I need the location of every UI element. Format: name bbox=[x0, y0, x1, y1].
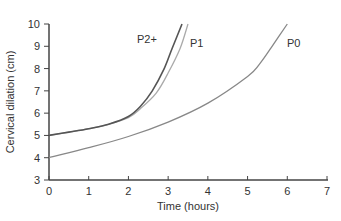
series-line-p1 bbox=[49, 24, 188, 135]
y-tick-label: 7 bbox=[34, 85, 40, 97]
y-tick-label: 9 bbox=[34, 40, 40, 52]
y-tick-label: 5 bbox=[34, 129, 40, 141]
x-tick-label: 5 bbox=[245, 185, 251, 197]
series-line-p0 bbox=[49, 24, 287, 158]
y-tick-label: 6 bbox=[34, 107, 40, 119]
chart: 01234567345678910 P2+P1P0 Time (hours) C… bbox=[0, 0, 341, 221]
y-axis-label: Cervical dilation (cm) bbox=[4, 51, 16, 154]
series-label-p0: P0 bbox=[287, 37, 300, 49]
x-tick-label: 1 bbox=[86, 185, 92, 197]
series-line-p2 bbox=[49, 24, 182, 135]
x-axis-label: Time (hours) bbox=[157, 200, 219, 212]
y-tick-label: 8 bbox=[34, 63, 40, 75]
series-group bbox=[49, 24, 287, 158]
x-tick-label: 4 bbox=[205, 185, 211, 197]
series-label-p2: P2+ bbox=[137, 33, 157, 45]
x-tick-label: 0 bbox=[46, 185, 52, 197]
series-label-p1: P1 bbox=[190, 37, 203, 49]
x-tick-label: 2 bbox=[125, 185, 131, 197]
x-tick-label: 6 bbox=[284, 185, 290, 197]
x-tick-label: 7 bbox=[324, 185, 330, 197]
y-tick-label: 10 bbox=[28, 18, 40, 30]
y-tick-label: 3 bbox=[34, 174, 40, 186]
axes: 01234567345678910 bbox=[28, 18, 330, 197]
y-tick-label: 4 bbox=[34, 152, 40, 164]
x-tick-label: 3 bbox=[165, 185, 171, 197]
